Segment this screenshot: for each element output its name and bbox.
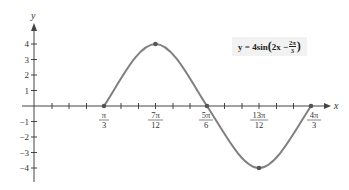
svg-text:7π: 7π [151,110,160,120]
sine-chart: x y 4 3 2 1 −1 −2 −3 −4 [0,0,349,190]
point-max [153,42,158,47]
svg-text:−1: −1 [19,117,29,127]
svg-text:−4: −4 [19,163,29,173]
svg-text:12: 12 [255,120,264,130]
svg-text:6: 6 [204,120,208,130]
point-zero-mid [205,104,210,109]
point-zero-start [102,104,107,109]
x-axis-arrow-icon [324,103,331,109]
x-label-pi-3: π 3 [99,110,109,130]
x-label-13pi-12: 13π 12 [250,110,268,130]
svg-text:13π: 13π [253,110,267,120]
svg-text:−2: −2 [19,132,29,142]
svg-text:3: 3 [312,120,316,130]
svg-text:π: π [102,110,107,120]
x-tick-labels: π 3 7π 12 5π 6 13π 12 4π 3 [99,110,321,130]
svg-text:3: 3 [25,55,30,65]
svg-text:4: 4 [25,39,30,49]
svg-text:4π: 4π [310,110,319,120]
svg-text:2: 2 [25,70,30,80]
svg-text:3: 3 [102,120,106,130]
equation-fraction: 2π 3 [289,39,296,54]
svg-text:1: 1 [25,86,30,96]
equation-lhs: y = 4 [238,42,257,52]
x-axis-label: x [333,100,339,111]
y-axis-arrow-icon [31,23,37,31]
point-zero-end [309,104,314,109]
point-min [257,166,262,171]
equation-fn: sin [257,42,268,52]
equation-label: y = 4 sin ( 2x − 2π 3 ) [232,37,307,56]
equation-arg: 2x − [272,42,288,52]
x-label-7pi-12: 7π 12 [148,110,163,130]
svg-text:−3: −3 [19,148,29,158]
y-axis-label: y [30,10,36,21]
svg-text:12: 12 [151,120,160,130]
x-label-4pi-3: 4π 3 [307,110,321,130]
equation-close: ) [297,39,301,54]
